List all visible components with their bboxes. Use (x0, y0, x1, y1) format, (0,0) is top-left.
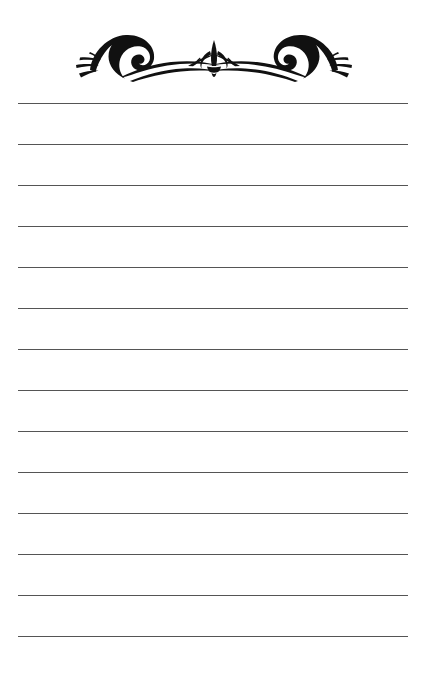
writing-rule-line (18, 554, 408, 555)
writing-rule-line (18, 636, 408, 637)
writing-rule-line (18, 267, 408, 268)
writing-rule-line (18, 308, 408, 309)
writing-rule-line (18, 431, 408, 432)
writing-rule-line (18, 226, 408, 227)
writing-rule-line (18, 390, 408, 391)
writing-rule-line (18, 185, 408, 186)
ruled-writing-lines (0, 0, 427, 675)
writing-rule-line (18, 595, 408, 596)
writing-rule-line (18, 103, 408, 104)
writing-rule-line (18, 472, 408, 473)
stationery-page (0, 0, 427, 675)
writing-rule-line (18, 513, 408, 514)
writing-rule-line (18, 144, 408, 145)
writing-rule-line (18, 349, 408, 350)
